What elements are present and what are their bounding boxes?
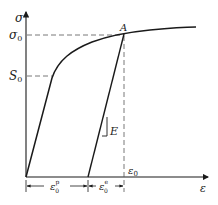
eps0-label: ε0 xyxy=(128,165,138,178)
sigma0-label: σ0 xyxy=(9,28,22,43)
x-axis-label: ε xyxy=(200,182,206,195)
y-axis-label: σ xyxy=(15,11,24,25)
eps-plastic-label: εp0 xyxy=(50,178,59,194)
S0-label: S0 xyxy=(9,69,22,84)
unloading-line xyxy=(88,34,124,177)
loading-curve xyxy=(26,27,196,177)
eps-elastic-label: εe0 xyxy=(99,178,108,194)
modulus-label: E xyxy=(109,125,118,138)
stress-strain-diagram: σ ε σ0 S0 A E ε0 εp0 εe0 xyxy=(0,0,218,205)
point-A-label: A xyxy=(119,22,127,33)
